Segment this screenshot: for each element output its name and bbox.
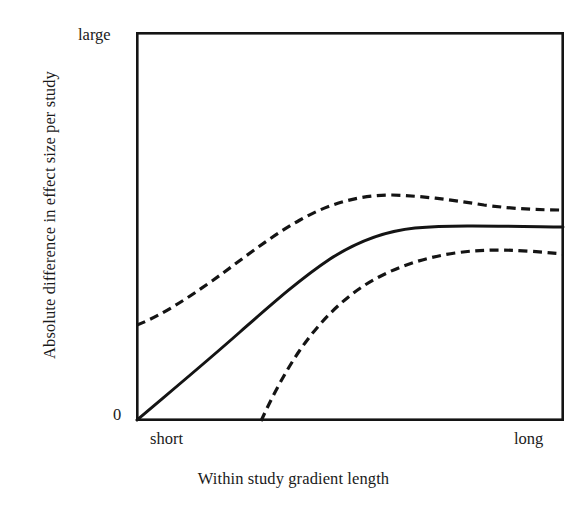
x-axis-tick-label-short: short (150, 429, 183, 449)
curve-mean (137, 226, 563, 420)
plot-area (0, 0, 587, 511)
curve-upper-bound (137, 195, 563, 325)
x-axis-tick-label-long: long (514, 429, 543, 449)
x-axis-title: Within study gradient length (0, 469, 587, 489)
figure-root: Absolute difference in effect size per s… (0, 0, 587, 511)
